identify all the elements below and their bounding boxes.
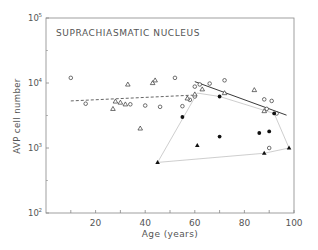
open-circle-point — [208, 82, 212, 86]
x-tick-label: 80 — [239, 218, 251, 228]
y-tick-label: 10 — [28, 13, 39, 23]
open-triangle-point — [118, 100, 123, 104]
open-circle-point — [69, 76, 73, 80]
open-circle-point — [262, 98, 266, 102]
filled-circle-point — [218, 95, 222, 99]
open-circle-point — [267, 146, 271, 150]
open-circle-point — [198, 83, 202, 87]
y-tick-label: 10 — [28, 208, 39, 218]
filled-circle-point — [181, 115, 185, 119]
y-tick-exponent: 4 — [39, 77, 43, 83]
filled-circle-point — [257, 131, 261, 135]
data-points — [69, 76, 291, 164]
y-tick-exponent: 3 — [39, 142, 43, 148]
open-circle-point — [158, 105, 162, 109]
filled-circle-point — [267, 130, 271, 134]
open-circle-point — [270, 99, 274, 103]
x-axis-label: Age (years) — [142, 229, 198, 239]
y-tick-label: 10 — [28, 78, 39, 88]
y-tick-label: 10 — [28, 143, 39, 153]
plot-frame — [46, 18, 294, 213]
open-triangle-point — [153, 78, 158, 82]
open-triangle-point — [113, 99, 118, 103]
open-circle-point — [84, 102, 88, 106]
y-axis-label: AVP cell number — [12, 78, 22, 154]
filled-circle-point — [272, 112, 276, 116]
x-tick-label: 20 — [90, 218, 102, 228]
open-circle-point — [173, 76, 177, 80]
polygon-outline — [158, 93, 289, 162]
chart-title: SUPRACHIASMATIC NUCLEUS — [56, 28, 200, 38]
chart: SUPRACHIASMATIC NUCLEUS Age (years) AVP … — [0, 0, 318, 250]
x-tick-label: 100 — [285, 218, 302, 228]
open-triangle-point — [252, 88, 257, 92]
open-triangle-point — [126, 82, 131, 86]
open-circle-point — [193, 85, 197, 89]
filled-triangle-point — [195, 143, 200, 147]
x-tick-labels: 20406080100 — [90, 218, 303, 228]
regression-lines — [71, 82, 289, 163]
filled-triangle-point — [287, 146, 292, 150]
open-circle-point — [143, 104, 147, 108]
y-tick-exponent: 2 — [39, 207, 43, 213]
open-triangle-point — [138, 126, 143, 130]
open-circle-point — [223, 79, 227, 83]
y-axis-ticks — [46, 18, 49, 213]
x-tick-label: 60 — [189, 218, 201, 228]
dashed-regression-line — [71, 95, 193, 101]
solid-regression-line — [195, 82, 287, 116]
open-triangle-point — [123, 102, 128, 106]
x-axis-ticks — [71, 210, 294, 213]
y-tick-exponent: 5 — [39, 12, 43, 18]
open-triangle-point — [111, 106, 116, 110]
open-circle-point — [181, 104, 185, 108]
open-circle-point — [129, 103, 133, 107]
y-tick-labels: 102103104105 — [28, 12, 43, 219]
filled-circle-point — [218, 135, 222, 139]
open-triangle-point — [200, 87, 205, 91]
x-tick-label: 40 — [139, 218, 151, 228]
